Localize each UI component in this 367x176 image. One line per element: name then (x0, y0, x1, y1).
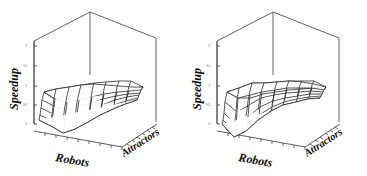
panel-left-yaxis-label: Attractors (118, 126, 161, 159)
panel-right-xaxis-label: Robots (236, 150, 273, 170)
panel-right-mesh (222, 81, 326, 137)
panel-right-zaxis-label: Speedup (190, 68, 204, 110)
panel-right-yaxis-label: Attractors (301, 126, 344, 159)
z-tick-label: 0.5 (23, 103, 27, 107)
z-tick-label: 0.5 (206, 103, 210, 107)
panel-right-z-ticklabels: 2 1.5 1 0.5 0 (206, 44, 210, 126)
panel-right-surface-plot: 2 1.5 1 0.5 0 (183, 0, 367, 176)
panel-left-mesh (39, 81, 143, 133)
panel-left-zaxis-label: Speedup (7, 68, 21, 110)
z-tick-label: 1 (25, 84, 27, 88)
panel-left-svg: 2 1.5 1 0.5 0 (0, 0, 184, 176)
z-tick-label: 1.5 (23, 64, 27, 68)
z-tick-label: 2 (25, 44, 27, 48)
panel-right-svg: 2 1.5 1 0.5 0 (183, 0, 367, 176)
figure-3d-surface-pair: 2 1.5 1 0.5 0 (0, 0, 367, 176)
z-tick-label: 2 (208, 44, 210, 48)
panel-left-xaxis-label: Robots (53, 150, 90, 170)
z-tick-label: 1 (208, 84, 210, 88)
panel-left-surface-plot: 2 1.5 1 0.5 0 (0, 0, 184, 176)
z-tick-label: 0 (208, 122, 210, 126)
z-tick-label: 1.5 (206, 64, 210, 68)
z-tick-label: 0 (25, 122, 27, 126)
panel-left-z-ticklabels: 2 1.5 1 0.5 0 (23, 44, 27, 126)
